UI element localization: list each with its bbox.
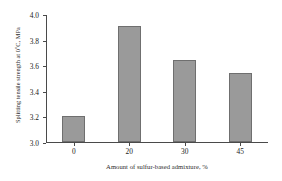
y-tick-mark [43, 41, 46, 42]
plot-area: 3.03.23.43.63.84.0 0203045 [46, 15, 268, 143]
x-tick-mark [185, 143, 186, 146]
y-axis-title-before: Splitting tensile strength at 0 [14, 49, 21, 123]
bar [118, 26, 141, 141]
bar-chart-figure: Splitting tensile strength at 0oC, MPa 3… [0, 0, 282, 181]
x-tick-label: 45 [237, 147, 244, 156]
x-axis-line [46, 142, 268, 143]
x-tick-mark [129, 143, 130, 146]
x-tick-mark [240, 143, 241, 146]
y-tick-label: 3.8 [30, 36, 39, 45]
bar [229, 73, 252, 142]
y-tick-mark [43, 15, 46, 16]
y-tick-label: 3.2 [30, 113, 39, 122]
y-axis-title: Splitting tensile strength at 0oC, MPa [13, 5, 21, 145]
y-tick-mark [43, 117, 46, 118]
bar [62, 116, 85, 142]
y-tick-label: 3.4 [30, 87, 39, 96]
y-tick-label: 3.0 [30, 139, 39, 148]
y-tick-mark [43, 143, 46, 144]
y-axis-line [46, 15, 47, 143]
y-axis-title-after: C, MPa [14, 27, 21, 47]
x-tick-label: 30 [181, 147, 188, 156]
x-tick-label: 20 [126, 147, 133, 156]
x-axis-title: Amount of sulfur-based admixture, % [46, 163, 268, 170]
y-tick-mark [43, 66, 46, 67]
y-tick-label: 4.0 [30, 11, 39, 20]
bar [173, 60, 196, 142]
y-tick-label: 3.6 [30, 62, 39, 71]
y-tick-mark [43, 92, 46, 93]
x-tick-label: 0 [72, 147, 76, 156]
x-tick-mark [74, 143, 75, 146]
